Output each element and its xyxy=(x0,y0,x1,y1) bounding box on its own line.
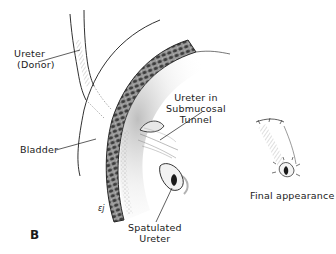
artist-signature: ɛj xyxy=(98,204,105,213)
final-appearance-label: Final appearance xyxy=(250,190,334,201)
tunnel-label-line3: Tunnel xyxy=(166,114,226,125)
panel-letter: B xyxy=(30,228,39,242)
donor-ureter-drawing xyxy=(70,10,112,118)
ureter-donor-label: Ureter (Donor) xyxy=(14,48,55,70)
illustration xyxy=(0,0,336,254)
final-appearance-drawing xyxy=(256,118,300,177)
ureter-donor-label-line2: (Donor) xyxy=(14,59,55,70)
spatulated-ureter-drawing xyxy=(156,164,188,222)
tunnel-label-line1: Ureter in xyxy=(166,92,226,103)
ureter-donor-label-line1: Ureter xyxy=(14,48,55,59)
spatulated-ureter-label: Spatulated Ureter xyxy=(128,222,182,244)
spatulated-label-line1: Spatulated xyxy=(128,222,182,233)
bladder-label: Bladder xyxy=(20,144,58,155)
figure-canvas: Ureter (Donor) Bladder Ureter in Submuco… xyxy=(0,0,336,254)
spatulated-label-line2: Ureter xyxy=(128,233,182,244)
bladder-leader xyxy=(56,139,96,150)
ureter-in-submucosal-tunnel-label: Ureter in Submucosal Tunnel xyxy=(166,92,226,125)
bladder-wall-drawing xyxy=(106,40,230,222)
tunnel-label-line2: Submucosal xyxy=(166,103,226,114)
